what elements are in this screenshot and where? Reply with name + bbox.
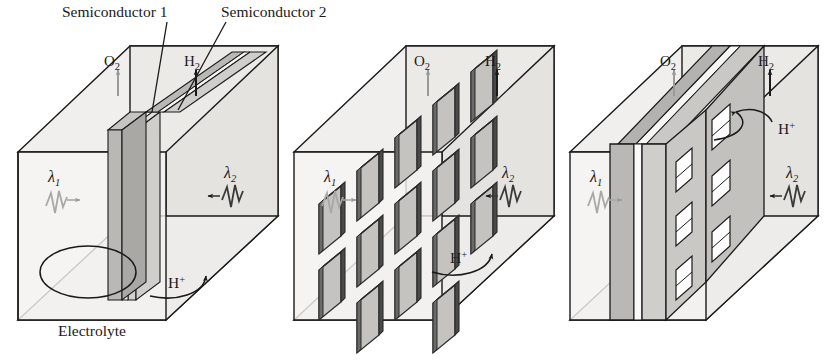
cell-3-gap-front <box>634 144 642 320</box>
cell-3-perforated-membrane: O2 H2 λ1 λ2 H+ <box>570 46 818 320</box>
figure-canvas: O2 H2 λ1 λ2 H+ Electrolyte Semiconductor… <box>0 0 832 364</box>
semiconductor-2-label: Semiconductor 2 <box>221 3 326 20</box>
cell-1-semiconductor-1-front <box>108 130 122 300</box>
cell-1-semiconductor-1-side <box>122 112 146 300</box>
cell-3-semiconductor-2-front <box>642 144 666 320</box>
semiconductor-1-label: Semiconductor 1 <box>62 3 167 20</box>
cell-3-semiconductor-1-front <box>610 144 634 320</box>
cell-1-solid-tandem: O2 H2 λ1 λ2 H+ Electrolyte <box>18 46 278 362</box>
electrolyte-label: Electrolyte <box>58 322 126 339</box>
cell-2-segmented-array: O2 H2 λ1 λ2 H+ <box>294 46 554 353</box>
diagram-svg: O2 H2 λ1 λ2 H+ Electrolyte Semiconductor… <box>0 0 832 364</box>
